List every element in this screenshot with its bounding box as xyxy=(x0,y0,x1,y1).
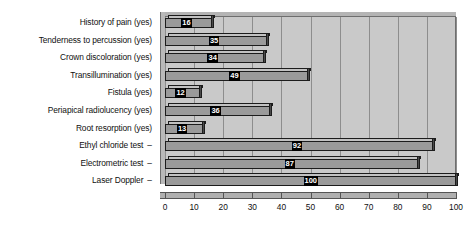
category-label-row: Electrometric test– xyxy=(80,154,152,172)
bar-value-label: 87 xyxy=(285,159,295,169)
value-axis: 0102030405060708090100 xyxy=(160,192,460,216)
tick-label: 50 xyxy=(306,202,315,212)
category-label: Ethyl chloride test xyxy=(79,140,143,150)
gridline xyxy=(456,17,457,179)
plot-area: 163534491236139287100 xyxy=(160,12,456,192)
tick-mark xyxy=(252,192,253,199)
tick-mark xyxy=(340,192,341,199)
category-label: Transillumination (yes) xyxy=(70,70,152,80)
bar-row: 87 xyxy=(165,156,422,174)
tick-label: 80 xyxy=(393,202,402,212)
bar-side-face xyxy=(263,50,266,63)
bar-value-label: 16 xyxy=(181,18,191,28)
bar-value-label: 36 xyxy=(210,106,220,116)
bar-side-face xyxy=(417,156,420,169)
category-label-row: Crown discoloration (yes) xyxy=(60,48,152,66)
bar-side-face xyxy=(432,138,435,151)
bar-value-label: 100 xyxy=(304,176,319,186)
tick-label: 20 xyxy=(219,202,228,212)
category-label: Fistula (yes) xyxy=(108,87,152,97)
bar-value-label: 12 xyxy=(175,88,185,98)
bar-side-face xyxy=(269,103,272,116)
bar-row: 35 xyxy=(165,33,271,51)
bar-side-face xyxy=(211,15,214,28)
category-label-row: Root resorption (yes) xyxy=(76,119,152,137)
category-label-row: Tenderness to percussion (yes) xyxy=(39,31,152,49)
tick-mark xyxy=(165,192,166,199)
category-label: History of pain (yes) xyxy=(80,17,152,27)
bar-value-label: 34 xyxy=(207,53,217,63)
category-dash: – xyxy=(147,140,152,150)
bar-side-face xyxy=(266,33,269,46)
tick-mark xyxy=(281,192,282,199)
category-label: Laser Doppler xyxy=(92,175,143,185)
tick-mark xyxy=(398,192,399,199)
tick-label: 70 xyxy=(364,202,373,212)
category-label: Electrometric test xyxy=(80,158,143,168)
bar-side-face xyxy=(202,121,205,134)
category-label: Tenderness to percussion (yes) xyxy=(39,35,152,45)
bar-value-label: 35 xyxy=(209,36,219,46)
bar-chart: History of pain (yes)Tenderness to percu… xyxy=(0,0,472,225)
bar-value-label: 49 xyxy=(229,71,239,81)
category-dash: – xyxy=(147,158,152,168)
category-label-row: Laser Doppler– xyxy=(92,171,152,189)
tick-mark xyxy=(427,192,428,199)
bar-row: 12 xyxy=(165,85,204,103)
category-label-row: Transillumination (yes) xyxy=(70,66,152,84)
axis-line xyxy=(160,192,456,199)
category-label-row: Fistula (yes) xyxy=(108,83,152,101)
tick-label: 10 xyxy=(189,202,198,212)
category-label-row: History of pain (yes) xyxy=(80,13,152,31)
bar-row: 92 xyxy=(165,138,437,156)
tick-label: 0 xyxy=(163,202,168,212)
bar-row: 36 xyxy=(165,103,274,121)
bar-value-label: 13 xyxy=(177,124,187,134)
tick-mark xyxy=(456,192,457,199)
tick-mark xyxy=(311,192,312,199)
category-dash: – xyxy=(147,175,152,185)
bar-row: 13 xyxy=(165,121,207,139)
bar-value-label: 92 xyxy=(292,141,302,151)
bar-side-face xyxy=(307,68,310,81)
tick-label: 60 xyxy=(335,202,344,212)
category-label: Root resorption (yes) xyxy=(76,123,152,133)
category-axis: History of pain (yes)Tenderness to percu… xyxy=(0,10,152,192)
bar-row: 100 xyxy=(165,173,460,191)
tick-label: 90 xyxy=(422,202,431,212)
category-label-row: Ethyl chloride test– xyxy=(79,136,152,154)
tick-label: 40 xyxy=(277,202,286,212)
tick-mark xyxy=(369,192,370,199)
tick-mark xyxy=(223,192,224,199)
bar-row: 49 xyxy=(165,68,312,86)
bar-side-face xyxy=(455,173,458,186)
tick-mark xyxy=(194,192,195,199)
bar-row: 34 xyxy=(165,50,268,68)
category-label: Crown discoloration (yes) xyxy=(60,52,152,62)
bar-side-face xyxy=(199,85,202,98)
category-label: Periapical radiolucency (yes) xyxy=(48,105,152,115)
tick-label: 100 xyxy=(449,202,463,212)
tick-label: 30 xyxy=(248,202,257,212)
category-label-row: Periapical radiolucency (yes) xyxy=(48,101,152,119)
bar-row: 16 xyxy=(165,15,216,33)
